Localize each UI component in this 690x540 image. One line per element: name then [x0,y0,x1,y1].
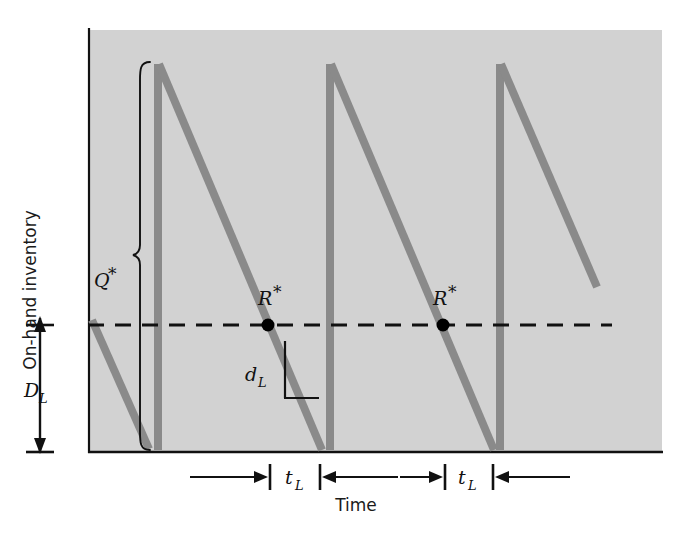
reorder-point-label-2: R [432,287,447,309]
lead-time-demand-subscript: L [38,391,48,406]
y-axis-title: On-hand inventory [20,210,40,369]
reorder-point-marker-1 [262,319,275,332]
lead-time-subscript-1: L [294,478,304,493]
lead-time-label-1: t [285,466,293,488]
lead-time-subscript-2: L [467,478,477,493]
demand-rate-subscript: L [257,375,267,390]
chart-canvas: Q * D L R * R * d L [0,0,690,540]
demand-rate-label: d [245,363,257,385]
order-quantity-star: * [108,264,117,284]
reorder-point-star-2: * [448,282,457,302]
reorder-point-star-1: * [273,282,282,302]
inventory-chart-figure: Q * D L R * R * d L [0,0,690,540]
x-axis-title: Time [334,495,377,515]
lead-time-label-2: t [458,466,466,488]
lead-time-demand-label: D [23,379,39,401]
reorder-point-label-1: R [257,287,272,309]
reorder-point-marker-2 [437,319,450,332]
